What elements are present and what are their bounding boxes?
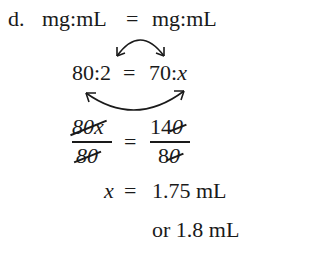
unknown-ratio: 70:x xyxy=(149,62,187,84)
fraction-right-denominator: 80 xyxy=(158,145,180,167)
result-variable: x xyxy=(104,180,114,202)
unknown-variable: x xyxy=(177,60,187,85)
equals-sign-3: = xyxy=(124,131,136,153)
equals-sign-2: = xyxy=(123,62,135,84)
fraction-left-denominator: 80 xyxy=(76,145,98,167)
fraction-left-numerator: 80x xyxy=(72,116,104,138)
equals-sign-4: = xyxy=(124,180,136,202)
rounded-result: or 1.8 mL xyxy=(152,219,239,241)
unknown-ratio-known: 70: xyxy=(149,60,177,85)
given-ratio: 80:2 xyxy=(72,62,111,84)
fraction-right-numerator: 140 xyxy=(150,116,183,138)
result-value: 1.75 mL xyxy=(152,180,227,202)
